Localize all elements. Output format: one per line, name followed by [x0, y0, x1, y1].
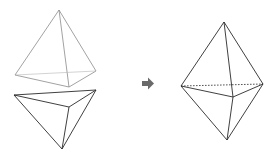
hidden-edge-dashed: [181, 84, 263, 86]
top-tetrahedron: [15, 10, 96, 87]
diagram-svg: [0, 0, 280, 160]
diagram-canvas: [0, 0, 280, 160]
bipyramid: [181, 22, 263, 140]
arrow-right-icon: [142, 78, 154, 90]
bottom-tetrahedron: [14, 90, 96, 149]
